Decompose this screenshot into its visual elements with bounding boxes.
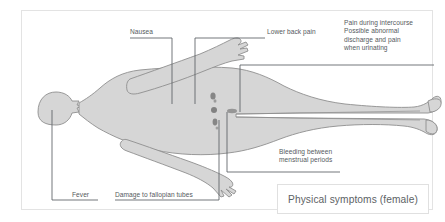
label-lower-back-pain: Lower back pain bbox=[267, 28, 316, 36]
head-shape bbox=[38, 92, 83, 125]
label-line: Possible abnormal bbox=[344, 27, 440, 35]
label-fever: Fever bbox=[72, 191, 89, 199]
label-line: menstrual periods bbox=[279, 156, 357, 164]
label-line: Pain during intercourse bbox=[344, 19, 440, 27]
label-line: discharge and pain bbox=[344, 36, 440, 44]
label-damage-to-fallopian-tubes: Damage to fallopian tubes bbox=[115, 191, 193, 199]
body-silhouette bbox=[38, 38, 441, 197]
label-bleeding-between-periods: Bleeding between menstrual periods bbox=[279, 148, 357, 165]
caption-text: Physical symptoms (female) bbox=[278, 185, 428, 213]
label-nausea: Nausea bbox=[130, 28, 153, 36]
label-line: Bleeding between bbox=[279, 148, 357, 156]
foot-upper-shape bbox=[428, 99, 441, 112]
label-pain-during-intercourse: Pain during intercourse Possible abnorma… bbox=[344, 19, 440, 53]
caption-box: Physical symptoms (female) bbox=[277, 184, 429, 214]
foot-lower-shape bbox=[426, 120, 437, 134]
diagram-page: Nausea Lower back pain Pain during inter… bbox=[0, 0, 445, 222]
label-line: when urinating bbox=[344, 44, 440, 52]
